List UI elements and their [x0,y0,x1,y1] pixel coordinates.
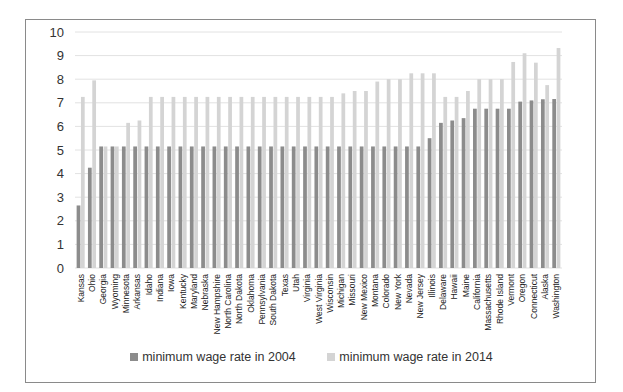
legend-swatch-2004 [130,353,138,361]
bar [115,146,119,268]
x-tick-label: Oklahoma [246,274,256,313]
x-tick-label: North Dakota [234,274,244,324]
x-tick-label: Washington [551,274,561,319]
bar [126,123,130,268]
bar [557,48,561,268]
x-tick-label: Delaware [438,274,448,310]
bar [387,79,391,268]
bar [307,97,311,268]
y-tick-label: 4 [57,166,64,181]
x-tick-label: Michigan [336,274,346,308]
bar [262,97,266,268]
bar [190,146,194,268]
x-tick-label: South Dakota [268,274,278,326]
x-tick-label: New York [393,273,403,310]
bar [179,146,183,268]
bar [217,97,221,268]
x-tick-label: Hawaii [449,274,459,300]
bar [416,146,420,268]
bar [326,146,330,268]
x-tick-label: New Hampshire [212,274,222,335]
bar [247,146,251,268]
x-tick-label: Massachusetts [483,274,493,331]
y-tick-label: 9 [57,48,64,63]
y-tick-label: 2 [57,213,64,228]
bar [183,97,187,268]
bar [375,82,379,268]
bar [484,109,488,268]
bar [496,109,500,268]
bar [224,146,228,268]
bar [511,62,515,268]
y-tick-label: 6 [57,119,64,134]
bar [473,109,477,268]
x-tick-label: Colorado [381,274,391,309]
bar [530,100,534,268]
bar [240,97,244,268]
x-tick-label: Alaska [540,274,550,300]
bar [489,79,493,268]
y-tick-label: 10 [50,25,64,40]
x-tick-label: Rhode Island [495,274,505,324]
y-tick-label: 1 [57,237,64,252]
x-tick-label: Wisconsin [325,274,335,313]
bar [269,146,273,268]
bar [228,97,232,268]
bar [319,97,323,268]
bar [405,146,409,268]
bar [341,93,345,268]
bar [292,146,296,268]
x-tick-label: New Mexico [359,274,369,321]
bar [160,97,164,268]
bar [145,146,149,268]
bar [104,146,108,268]
bar [523,53,527,268]
bar [258,146,262,268]
bar [432,73,436,268]
bar [77,205,81,268]
bar [360,146,364,268]
y-tick-label: 0 [57,261,64,276]
x-tick-label: Pennsylvania [257,274,267,325]
bar [348,146,352,268]
bar [364,91,368,268]
x-tick-label: Connecticut [529,273,539,319]
x-tick-label: Ohio [87,274,97,292]
x-tick-label: North Carolina [223,274,233,329]
bar [439,123,443,268]
bar [421,73,425,268]
bar [303,146,307,268]
bar [235,146,239,268]
x-tick-label: Minnesota [121,274,131,313]
bar [280,146,284,268]
bar [477,79,481,268]
bar [88,168,92,268]
bar [371,146,375,268]
bar [394,146,398,268]
x-tick-label: Utah [291,274,301,292]
bar [81,97,85,268]
x-tick-label: Maine [461,274,471,297]
x-tick-label: Texas [280,274,290,296]
y-tick-label: 5 [57,143,64,158]
x-tick-label: Iowa [166,274,176,292]
x-tick-label: West Virginia [314,274,324,324]
x-tick-label: Georgia [98,274,108,305]
bar [330,97,334,268]
x-tick-label: Indiana [155,274,165,302]
bar [337,146,341,268]
y-tick-label: 7 [57,95,64,110]
bar [353,91,357,268]
legend: minimum wage rate in 2004 minimum wage r… [0,350,623,364]
bar [201,146,205,268]
y-axis: 012345678910 [50,25,64,276]
bar [443,97,447,268]
bar [450,121,454,269]
bar [92,80,96,268]
bar [552,99,556,268]
bar [534,63,538,268]
bar [428,138,432,268]
x-tick-label: Missouri [347,274,357,306]
bar [138,121,142,269]
bar [541,99,545,268]
